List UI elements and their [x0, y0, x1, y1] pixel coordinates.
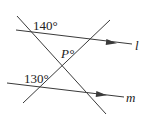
transversal-descending [17, 16, 106, 114]
line-label-m: m [126, 90, 135, 105]
line-label-l: l [135, 38, 139, 53]
angle-label-130: 130° [24, 71, 49, 86]
arrow-l-icon [106, 39, 118, 46]
angle-label-140: 140° [33, 18, 58, 33]
geometry-diagram: 140° P° 130° l m [0, 0, 144, 122]
angle-label-p: P° [60, 46, 74, 61]
